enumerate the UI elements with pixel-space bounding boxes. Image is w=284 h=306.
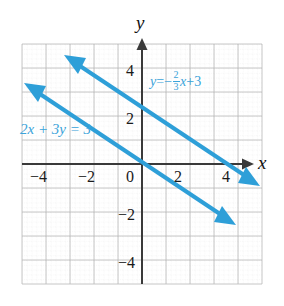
x-axis-name: x <box>258 152 266 174</box>
coordinate-plane-svg <box>0 0 284 306</box>
eq1-constant: 3 <box>194 74 201 89</box>
eq1-equals: = <box>156 74 164 89</box>
y-axis-name: y <box>136 12 144 34</box>
eq1-sign: − <box>164 74 172 89</box>
eq1-numerator: 2 <box>173 70 180 82</box>
eq1-fraction: 23 <box>173 70 180 92</box>
eq1-denominator: 3 <box>173 82 180 93</box>
y-tick-label-2: 2 <box>126 110 134 128</box>
graph-figure: −4 −2 0 2 4 4 2 −2 −4 y x y=−23x+3 2x + … <box>0 0 284 306</box>
y-tick-label-minus-4: −4 <box>118 254 135 272</box>
x-tick-label-minus-4: −4 <box>30 168 47 186</box>
x-tick-label-2: 2 <box>174 168 182 186</box>
x-tick-label-4: 4 <box>222 168 230 186</box>
y-tick-label-4: 4 <box>126 62 134 80</box>
x-tick-label-0: 0 <box>126 168 134 186</box>
y-tick-label-minus-2: −2 <box>118 206 135 224</box>
equation-label-line2: 2x + 3y = 3 <box>20 122 91 137</box>
equation-label-line1: y=−23x+3 <box>150 70 201 92</box>
x-tick-label-minus-2: −2 <box>78 168 95 186</box>
